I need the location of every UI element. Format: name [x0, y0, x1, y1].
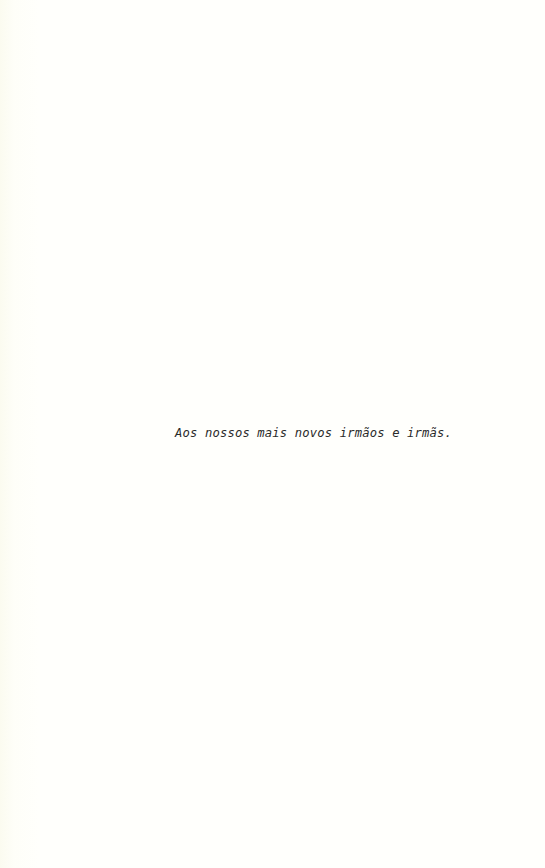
dedication-text: Aos nossos mais novos irmãos e irmãs.	[175, 425, 452, 441]
book-page: Aos nossos mais novos irmãos e irmãs.	[0, 0, 545, 868]
